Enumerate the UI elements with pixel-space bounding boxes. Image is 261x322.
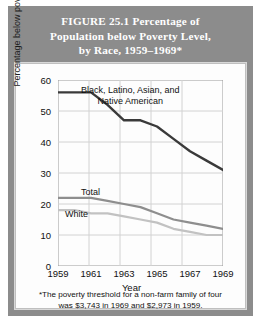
series-label-minority-line-1: Black, Latino, Asian, and xyxy=(81,85,180,95)
x-tick-1963: 1963 xyxy=(113,268,134,279)
x-axis-ticks: 1959 1961 1963 1965 1967 1969 xyxy=(58,268,223,282)
x-tick-1965: 1965 xyxy=(146,268,167,279)
figure-container: FIGURE 25.1 Percentage of Population bel… xyxy=(0,0,261,322)
figure-title: FIGURE 25.1 Percentage of Population bel… xyxy=(8,6,253,60)
series-label-minority-line-2: Native American xyxy=(98,96,164,106)
y-tick-50: 50 xyxy=(29,106,51,117)
series-label-white: White xyxy=(65,209,88,220)
y-axis-title: Percentage below poverty level xyxy=(12,0,22,89)
figure-title-line-2: Population below Poverty Level, xyxy=(8,29,253,44)
y-tick-20: 20 xyxy=(29,199,51,210)
series-label-total: Total xyxy=(81,187,100,198)
figure-title-line-3: by Race, 1959–1969* xyxy=(8,43,253,58)
plot-area xyxy=(58,80,223,266)
figure-plate: FIGURE 25.1 Percentage of Population bel… xyxy=(8,6,253,316)
series-label-minority: Black, Latino, Asian, and Native America… xyxy=(81,85,180,106)
y-tick-10: 10 xyxy=(29,230,51,241)
x-tick-1959: 1959 xyxy=(47,268,68,279)
figure-footnote: *The poverty threshold for a non-farm fa… xyxy=(16,290,245,311)
x-tick-1967: 1967 xyxy=(179,268,200,279)
y-tick-30: 30 xyxy=(29,168,51,179)
x-tick-1969: 1969 xyxy=(212,268,233,279)
x-tick-1961: 1961 xyxy=(80,268,101,279)
figure-title-line-1: FIGURE 25.1 Percentage of xyxy=(8,14,253,29)
y-tick-40: 40 xyxy=(29,137,51,148)
chart-svg xyxy=(58,80,223,266)
figure-footnote-line-1: *The poverty threshold for a non-farm fa… xyxy=(16,290,245,301)
figure-footnote-line-2: was $3,743 in 1969 and $2,973 in 1959. xyxy=(16,301,245,312)
chart-card: Percentage below poverty level 60 50 40 … xyxy=(14,62,247,310)
y-tick-60: 60 xyxy=(29,75,51,86)
